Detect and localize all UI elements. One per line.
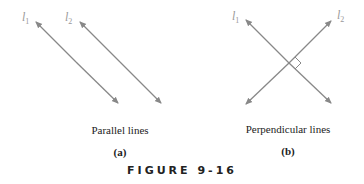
label-l1-b: l1 [232, 9, 239, 25]
panel-label-a: (a) [40, 146, 200, 158]
parallel-line-l2 [80, 22, 120, 62]
caption-b: Perpendicular lines [208, 123, 364, 135]
figure-title: FIGURE 9-16 [0, 164, 364, 177]
label-l1-a: l1 [22, 10, 29, 26]
label-l2-a: l2 [65, 10, 72, 26]
label-l2-b: l2 [337, 8, 344, 24]
perpendicular-line-l2 [289, 21, 331, 63]
perpendicular-line-l1 [246, 20, 289, 63]
parallel-line-l1 [36, 22, 76, 62]
panel-label-b: (b) [208, 145, 364, 157]
caption-a: Parallel lines [40, 124, 200, 136]
right-angle-marker [295, 57, 301, 69]
